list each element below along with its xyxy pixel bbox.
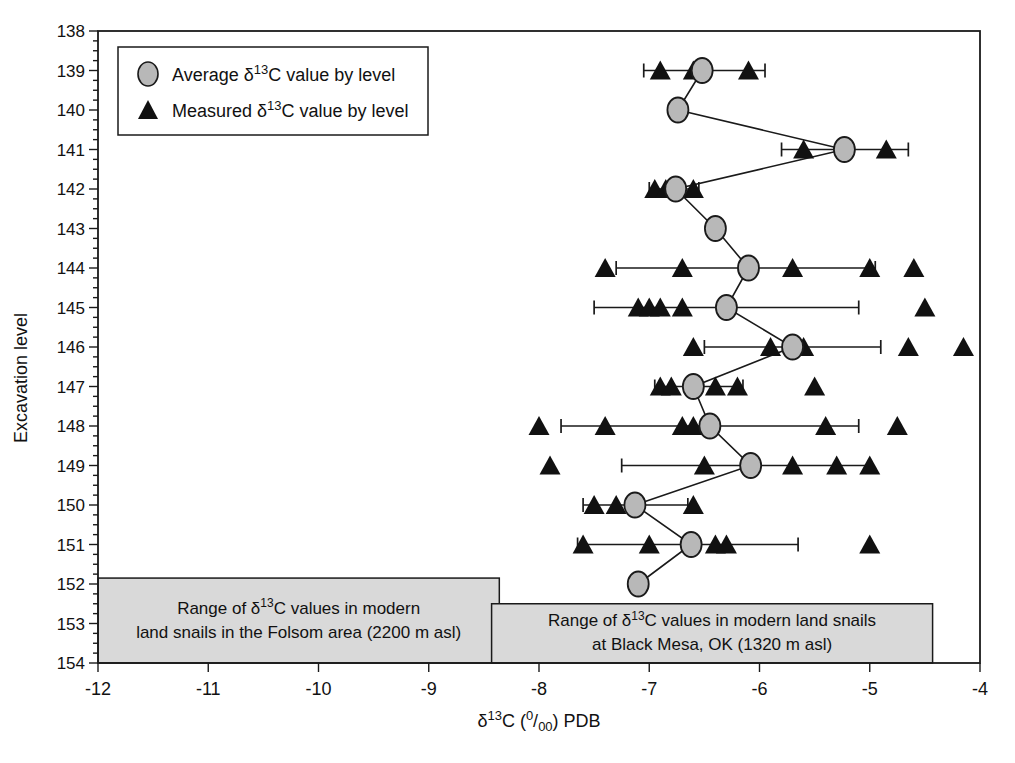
x-tick-label: -8 (531, 679, 547, 699)
y-tick-label: 141 (57, 141, 85, 160)
excavation-chart-figure: Excavation level Range of δ13C values in… (0, 0, 1015, 763)
y-tick-label: 138 (57, 22, 85, 41)
y-tick-label: 147 (57, 378, 85, 397)
y-tick-label: 149 (57, 457, 85, 476)
average-point-level-139 (692, 58, 713, 83)
x-tick-label: -12 (85, 679, 111, 699)
folsom-range-box (98, 578, 499, 663)
x-tick-label: -4 (972, 679, 988, 699)
measured-point-level-144 (903, 258, 924, 277)
y-tick-label: 144 (57, 259, 85, 278)
average-point-level-142 (665, 177, 686, 202)
average-circle-marker (138, 62, 158, 86)
average-point-level-141 (834, 137, 855, 162)
folsom-range-box-line1: Range of δ13C values in modern (177, 596, 420, 618)
y-tick-label: 154 (57, 654, 85, 673)
x-tick-label: -6 (751, 679, 767, 699)
y-tick-label: 140 (57, 101, 85, 120)
measured-point-level-144 (595, 258, 616, 277)
black-mesa-range-box-line2: at Black Mesa, OK (1320 m asl) (592, 635, 832, 654)
average-point-level-148 (699, 414, 720, 439)
measured-point-level-146 (898, 337, 919, 356)
measured-point-level-149 (540, 456, 561, 475)
x-tick-label: -10 (305, 679, 331, 699)
average-point-level-140 (667, 98, 688, 123)
y-tick-label: 143 (57, 220, 85, 239)
y-tick-label: 145 (57, 299, 85, 318)
x-tick-label: -9 (421, 679, 437, 699)
x-tick-label: -7 (641, 679, 657, 699)
folsom-range-box-line2: land snails in the Folsom area (2200 m a… (136, 623, 461, 642)
legend-label-measured: Measured δ13C value by level (172, 98, 409, 121)
average-point-level-149 (740, 453, 761, 478)
measured-point-level-151 (859, 535, 880, 554)
measured-point-level-147 (804, 377, 825, 396)
black-mesa-range-box-line1: Range of δ13C values in modern land snai… (548, 609, 876, 631)
average-point-level-143 (705, 216, 726, 241)
y-tick-label: 150 (57, 496, 85, 515)
x-tick-label: -11 (196, 679, 221, 699)
x-axis-title: δ13C (0/00) PDB (477, 708, 600, 733)
average-point-level-145 (716, 295, 737, 320)
average-point-level-150 (624, 493, 645, 518)
average-line (635, 71, 844, 585)
y-tick-label: 152 (57, 575, 85, 594)
y-tick-label: 148 (57, 417, 85, 436)
measured-point-level-145 (914, 298, 935, 317)
average-point-level-152 (628, 572, 649, 597)
y-axis-title: Excavation level (11, 313, 31, 443)
y-tick-label: 142 (57, 180, 85, 199)
average-point-level-146 (782, 335, 803, 360)
chart-generated-content: Range of δ13C values in modernland snail… (57, 22, 988, 734)
measured-point-level-148 (529, 416, 550, 435)
legend-label-average: Average δ13C value by level (172, 62, 395, 85)
average-point-level-147 (683, 374, 704, 399)
average-point-level-151 (681, 532, 702, 557)
measured-point-level-146 (953, 337, 974, 356)
y-tick-label: 151 (57, 536, 85, 555)
x-tick-label: -5 (862, 679, 878, 699)
y-tick-label: 146 (57, 338, 85, 357)
y-tick-label: 153 (57, 615, 85, 634)
measured-point-level-146 (683, 337, 704, 356)
measured-point-level-148 (887, 416, 908, 435)
average-point-level-144 (738, 256, 759, 281)
y-tick-label: 139 (57, 62, 85, 81)
legend-box (118, 47, 428, 135)
chart-canvas: Excavation level Range of δ13C values in… (0, 0, 1015, 763)
